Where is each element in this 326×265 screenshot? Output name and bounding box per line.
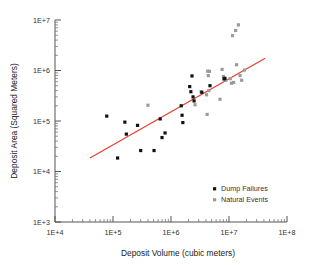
- y-tick-label: 1E+5: [33, 117, 50, 126]
- data-point: [105, 115, 108, 118]
- data-point: [232, 81, 235, 84]
- data-point: [116, 156, 119, 159]
- series-natural-events: [146, 23, 246, 116]
- data-point: [125, 133, 128, 136]
- legend-label: Natural Events: [221, 195, 269, 204]
- scatter-chart: 1E+41E+51E+61E+71E+8 1E+31E+41E+51E+61E+…: [0, 0, 326, 265]
- data-point: [218, 98, 221, 101]
- data-point: [139, 149, 142, 152]
- data-point: [208, 70, 211, 73]
- data-point: [231, 34, 234, 37]
- trend-line-segment: [90, 58, 265, 158]
- legend-swatch: [213, 198, 216, 201]
- data-point: [208, 84, 211, 87]
- chart-legend: Dump FailuresNatural Events: [213, 184, 269, 204]
- data-point: [234, 29, 237, 32]
- x-tick-label: 1E+6: [163, 228, 180, 237]
- chart-canvas: 1E+41E+51E+61E+71E+8 1E+31E+41E+51E+61E+…: [0, 0, 326, 265]
- data-point: [152, 149, 155, 152]
- data-point: [220, 68, 223, 71]
- data-point: [146, 104, 149, 107]
- y-axis-label: Deposit Area (Squared Meters): [9, 63, 19, 179]
- data-point: [191, 95, 194, 98]
- data-point: [188, 85, 191, 88]
- series-dump-failures: [105, 74, 226, 159]
- data-point: [181, 121, 184, 124]
- data-point: [229, 77, 232, 80]
- data-point: [180, 104, 183, 107]
- legend-label: Dump Failures: [221, 184, 268, 193]
- y-tick-label: 1E+3: [33, 218, 50, 227]
- data-point: [207, 89, 210, 92]
- y-tick-labels: 1E+31E+41E+51E+61E+7: [33, 16, 50, 227]
- data-point: [238, 74, 241, 77]
- data-point: [160, 136, 163, 139]
- data-point: [159, 117, 162, 120]
- data-point: [190, 74, 193, 77]
- data-point: [192, 99, 195, 102]
- data-point: [237, 23, 240, 26]
- x-tick-label: 1E+8: [279, 228, 296, 237]
- data-point: [200, 91, 203, 94]
- data-point: [136, 124, 139, 127]
- y-tick-label: 1E+7: [33, 16, 50, 25]
- data-point: [240, 79, 243, 82]
- data-point: [193, 103, 196, 106]
- x-tick-label: 1E+5: [105, 228, 122, 237]
- x-tick-labels: 1E+41E+51E+61E+71E+8: [47, 228, 296, 237]
- x-tick-label: 1E+7: [221, 228, 238, 237]
- legend-swatch: [213, 187, 216, 190]
- data-point: [243, 68, 246, 71]
- data-point: [163, 131, 166, 134]
- data-point: [223, 77, 226, 80]
- x-axis-label: Deposit Volume (cubic meters): [121, 248, 235, 258]
- data-point: [207, 74, 210, 77]
- data-point: [205, 93, 208, 96]
- data-point: [235, 63, 238, 66]
- y-tick-label: 1E+6: [33, 66, 50, 75]
- data-point: [189, 90, 192, 93]
- data-point: [123, 121, 126, 124]
- data-point: [206, 113, 209, 116]
- data-point: [180, 114, 183, 117]
- x-tick-label: 1E+4: [47, 228, 64, 237]
- trend-line: [90, 58, 265, 158]
- y-tick-label: 1E+4: [33, 167, 50, 176]
